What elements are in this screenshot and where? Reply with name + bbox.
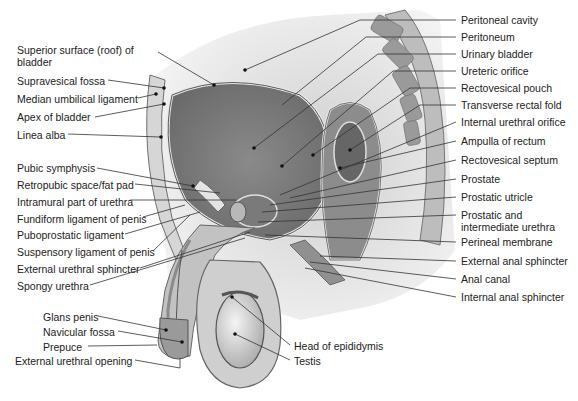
label-apex-of-bladder: Apex of bladder xyxy=(17,111,91,123)
label-intramural-urethra: Intramural part of urethra xyxy=(17,196,133,208)
label-suspensory-ligament: Suspensory ligament of penis xyxy=(17,246,155,258)
label-spongy-urethra: Spongy urethra xyxy=(17,280,89,292)
label-internal-urethral-orifice: Internal urethral orifice xyxy=(461,116,565,128)
label-urinary-bladder: Urinary bladder xyxy=(461,48,533,60)
label-glans-penis: Glans penis xyxy=(43,311,98,323)
label-ureteric-orifice: Ureteric orifice xyxy=(461,65,529,77)
label-prostate: Prostate xyxy=(461,173,500,185)
label-ampulla-of-rectum: Ampulla of rectum xyxy=(461,135,546,147)
label-head-of-epididymis: Head of epididymis xyxy=(294,340,383,352)
label-rectovesical-pouch: Rectovesical pouch xyxy=(461,82,552,94)
label-retropubic-space: Retropubic space/fat pad xyxy=(17,179,134,191)
label-superior-surface-of-bladder: Superior surface (roof) of bladder xyxy=(17,44,137,68)
label-navicular-fossa: Navicular fossa xyxy=(43,326,115,338)
label-peritoneum: Peritoneum xyxy=(461,31,515,43)
label-transverse-rectal-fold: Transverse rectal fold xyxy=(461,99,562,111)
label-linea-alba: Linea alba xyxy=(17,129,65,141)
anatomy-figure: Superior surface (roof) of bladder Supra… xyxy=(0,0,578,401)
label-median-umbilical-ligament: Median umbilical ligament xyxy=(17,93,138,105)
label-supravesical-fossa: Supravesical fossa xyxy=(17,75,105,87)
label-internal-anal-sphincter: Internal anal sphincter xyxy=(461,291,564,303)
label-pubic-symphysis: Pubic symphysis xyxy=(17,162,95,174)
label-perineal-membrane: Perineal membrane xyxy=(461,236,553,248)
label-external-urethral-opening: External urethral opening xyxy=(15,355,132,367)
label-external-anal-sphincter: External anal sphincter xyxy=(461,255,568,267)
label-testis: Testis xyxy=(294,355,321,367)
label-puboprostatic-ligament: Puboprostatic ligament xyxy=(17,229,124,241)
label-prostatic-utricle: Prostatic utricle xyxy=(461,191,533,203)
label-peritoneal-cavity: Peritoneal cavity xyxy=(461,14,538,26)
label-prepuce: Prepuce xyxy=(43,341,82,353)
label-anal-canal: Anal canal xyxy=(461,273,510,285)
label-rectovesical-septum: Rectovesical septum xyxy=(461,154,558,166)
label-external-urethral-sphincter: External urethral sphincter xyxy=(17,263,140,275)
label-fundiform-ligament: Fundiform ligament of penis xyxy=(17,213,147,225)
label-prostatic-intermediate-urethra: Prostatic and intermediate urethra xyxy=(461,209,576,233)
